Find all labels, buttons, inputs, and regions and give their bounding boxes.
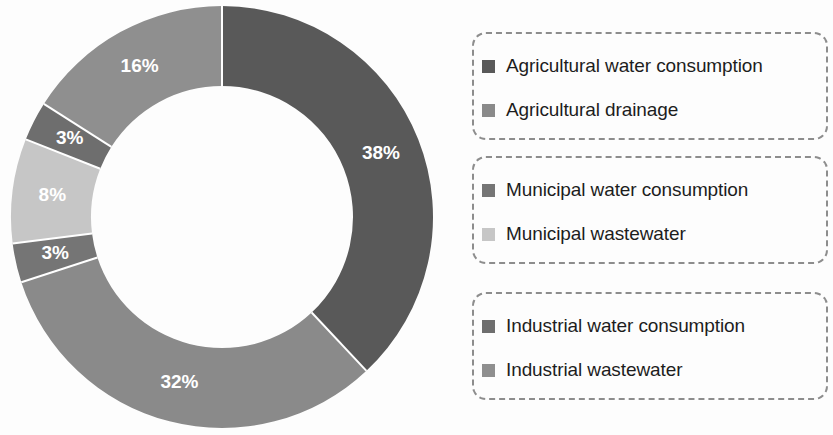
legend-swatch-icon bbox=[482, 320, 495, 333]
donut-chart-svg: 38%32%3%8%3%16% bbox=[0, 0, 460, 435]
legend-item[interactable]: Agricultural water consumption bbox=[474, 44, 826, 88]
legend-item-label: Municipal water consumption bbox=[506, 179, 748, 201]
slice-value-label: 16% bbox=[121, 55, 159, 76]
legend-swatch-icon bbox=[482, 228, 495, 241]
legend-item-label: Industrial wastewater bbox=[506, 359, 682, 381]
donut-slice[interactable] bbox=[222, 6, 433, 371]
slice-value-label: 8% bbox=[39, 184, 67, 205]
legend-group-industrial: Industrial water consumption Industrial … bbox=[472, 292, 828, 400]
legend-group-municipal: Municipal water consumption Municipal wa… bbox=[472, 156, 828, 264]
legend-swatch-icon bbox=[482, 184, 495, 197]
donut-chart: 38%32%3%8%3%16% bbox=[0, 0, 460, 435]
legend-item-label: Agricultural water consumption bbox=[506, 55, 763, 77]
legend-item-label: Industrial water consumption bbox=[506, 315, 745, 337]
legend-item[interactable]: Municipal wastewater bbox=[474, 212, 826, 256]
slice-value-label: 3% bbox=[56, 127, 84, 148]
legend-item[interactable]: Agricultural drainage bbox=[474, 88, 826, 132]
slice-value-label: 3% bbox=[41, 242, 69, 263]
legend-item-label: Municipal wastewater bbox=[506, 223, 686, 245]
legend-item-label: Agricultural drainage bbox=[506, 99, 678, 121]
chart-page: 38%32%3%8%3%16% Agricultural water consu… bbox=[0, 0, 833, 435]
legend: Agricultural water consumption Agricultu… bbox=[470, 0, 833, 435]
legend-item[interactable]: Industrial wastewater bbox=[474, 348, 826, 392]
legend-swatch-icon bbox=[482, 104, 495, 117]
legend-item[interactable]: Municipal water consumption bbox=[474, 168, 826, 212]
legend-swatch-icon bbox=[482, 60, 495, 73]
legend-item[interactable]: Industrial water consumption bbox=[474, 304, 826, 348]
legend-swatch-icon bbox=[482, 364, 495, 377]
slice-value-label: 32% bbox=[160, 371, 198, 392]
donut-slice[interactable] bbox=[21, 257, 366, 428]
legend-group-agricultural: Agricultural water consumption Agricultu… bbox=[472, 32, 828, 140]
slice-value-label: 38% bbox=[362, 142, 400, 163]
